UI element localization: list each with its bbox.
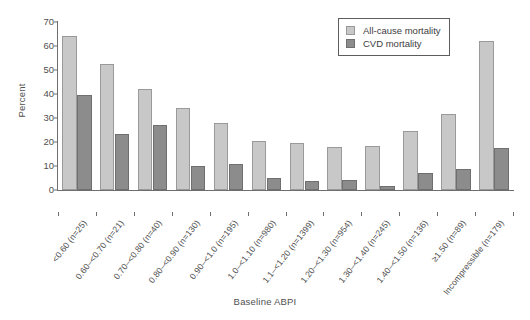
x-axis-tick-mark	[96, 212, 97, 216]
bar-all-cause	[138, 89, 153, 190]
y-axis-tick-mark	[54, 166, 58, 167]
bar-cvd	[305, 181, 320, 190]
y-axis-tick-label: 50	[43, 65, 54, 75]
y-axis-tick-mark	[54, 190, 58, 191]
bar-all-cause	[214, 123, 229, 190]
bar-all-cause	[290, 143, 305, 190]
bar-cvd	[153, 125, 168, 190]
bar-cvd	[267, 178, 282, 190]
x-axis-tick-mark	[248, 212, 249, 216]
legend-swatch-icon-cvd	[346, 39, 355, 48]
legend-item-all-cause: All-cause mortality	[346, 24, 441, 37]
y-axis-tick-label: 40	[43, 89, 54, 99]
x-axis-tick-mark	[361, 212, 362, 216]
bar-cvd	[380, 186, 395, 190]
bar-all-cause	[441, 114, 456, 190]
x-axis-label: Baseline ABPI	[0, 296, 530, 307]
y-axis-tick-label: 10	[43, 161, 54, 171]
y-axis-tick-mark	[54, 142, 58, 143]
y-axis-tick-label: 60	[43, 41, 54, 51]
bar-all-cause	[62, 36, 77, 190]
bar-cvd	[77, 95, 92, 190]
bar-all-cause	[479, 41, 494, 190]
x-axis-tick-mark	[513, 212, 514, 216]
legend-label-cvd: CVD mortality	[363, 39, 422, 49]
y-axis-tick-label: 30	[43, 113, 54, 123]
bar-all-cause	[100, 64, 115, 190]
bar-cvd	[229, 164, 244, 190]
bar-all-cause	[327, 147, 342, 190]
bar-cvd	[342, 180, 357, 190]
bar-all-cause	[403, 131, 418, 190]
x-axis-category-label: <0.60 (n=25)	[49, 218, 88, 264]
x-axis-tick-mark	[58, 212, 59, 216]
bar-cvd	[456, 169, 471, 190]
bar-cvd	[115, 134, 130, 190]
x-axis-tick-mark	[286, 212, 287, 216]
x-axis-category-label: ≥1.50 (n=89)	[429, 218, 468, 264]
y-axis-tick-label: 70	[43, 17, 54, 27]
y-axis-tick-mark	[54, 46, 58, 47]
bar-cvd	[418, 173, 433, 190]
x-axis-tick-mark	[399, 212, 400, 216]
x-axis-tick-mark	[134, 212, 135, 216]
bar-all-cause	[176, 108, 191, 190]
y-axis-label: Percent	[16, 56, 27, 146]
bar-all-cause	[365, 146, 380, 190]
y-axis-tick-mark	[54, 94, 58, 95]
x-axis-tick-mark	[172, 212, 173, 216]
x-axis-tick-mark	[437, 212, 438, 216]
y-axis-tick-label: 20	[43, 137, 54, 147]
bar-chart-figure: Percent 010203040506070<0.60 (n=25)0.60–…	[0, 0, 530, 320]
bar-all-cause	[252, 141, 267, 190]
y-axis-tick-mark	[54, 70, 58, 71]
chart-legend: All-cause mortality CVD mortality	[338, 18, 450, 56]
legend-label-all-cause: All-cause mortality	[363, 26, 441, 36]
legend-swatch-icon-all-cause	[346, 26, 355, 35]
bar-cvd	[494, 148, 509, 190]
y-axis-tick-mark	[54, 118, 58, 119]
x-axis-tick-mark	[210, 212, 211, 216]
y-axis-tick-mark	[54, 22, 58, 23]
bar-cvd	[191, 166, 206, 190]
x-axis-tick-mark	[475, 212, 476, 216]
x-axis-tick-mark	[323, 212, 324, 216]
x-axis-line	[57, 190, 514, 191]
legend-item-cvd: CVD mortality	[346, 37, 441, 50]
